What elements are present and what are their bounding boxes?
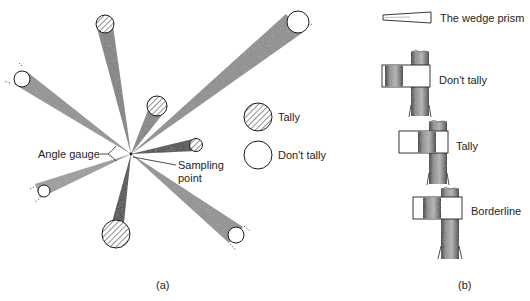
legend-tally-label: Tally [278,111,300,123]
displaced-trunk [418,132,436,153]
view-borderline-label: Borderline [471,205,521,217]
angle-count-sampling-figure: Angle gauge Sampling point Tally Don't t… [0,0,530,301]
tree-t2-dont-tally [14,71,30,87]
legend-dont-tally-symbol [244,141,272,169]
tree-t4-dont-tally [287,11,309,33]
beam-t4 [131,14,302,154]
angle-gauge-label: Angle gauge [38,148,100,160]
panel-b-caption: (b) [458,279,471,291]
legend-dont-tally-label: Don't tally [278,149,326,161]
beam-t7 [112,154,131,222]
legend-tally-symbol [244,103,272,131]
tree-t7-tally [102,220,130,248]
view-dont-tally [382,51,431,118]
view-tally [399,121,449,186]
panel-a-caption: (a) [156,279,169,291]
tree-t5-tally [190,139,203,152]
wedge-prism-label: The wedge prism [440,12,524,24]
wedge-prism-icon [383,12,431,23]
tree-t6-dont-tally [38,185,50,197]
sampling-point-label-line2: point [178,172,202,184]
sampling-point-label-line1: Sampling [178,159,224,171]
tree-t8-dont-tally [228,227,244,243]
view-borderline [413,188,462,260]
view-dont-tally-label: Don't tally [439,74,487,86]
view-tally-label: Tally [456,140,478,152]
legend-symbols [244,103,272,169]
tree-t1-tally [96,15,114,33]
angle-gauge-bracket [100,146,116,161]
displaced-trunk [385,66,403,87]
displaced-trunk [423,198,441,219]
tree-t3-tally [147,96,167,116]
